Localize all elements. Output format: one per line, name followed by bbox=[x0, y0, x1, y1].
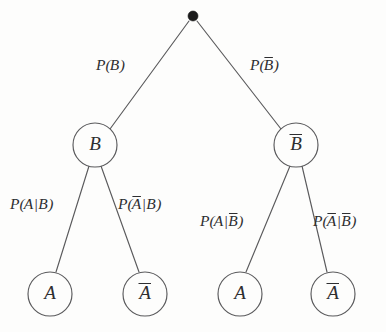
label-p-abar-given-bbar: P(A|B) bbox=[312, 212, 356, 230]
tree-canvas: B B A A A bbox=[0, 0, 386, 332]
edge-bbar-to-a bbox=[246, 166, 290, 272]
svg-text:|: | bbox=[142, 195, 146, 212]
node-bbar-label: B bbox=[290, 133, 302, 154]
edge-group-level-1 bbox=[110, 21, 281, 129]
svg-text:B: B bbox=[228, 212, 238, 229]
svg-text:|: | bbox=[224, 212, 228, 229]
svg-text:): ) bbox=[273, 56, 279, 74]
label-p-a-given-b: P(A|B) bbox=[9, 195, 53, 213]
svg-text:): ) bbox=[237, 212, 243, 230]
leaf-a-given-b[interactable]: A bbox=[28, 272, 72, 316]
node-group-level-2: A A A A bbox=[28, 272, 355, 316]
svg-text:): ) bbox=[47, 195, 53, 213]
svg-text:): ) bbox=[119, 56, 125, 74]
svg-text:B: B bbox=[264, 56, 274, 73]
probability-tree-diagram: B B A A A bbox=[0, 0, 386, 332]
root-node[interactable] bbox=[188, 11, 198, 21]
edge-group-level-2 bbox=[56, 166, 327, 272]
edge-b-to-abar bbox=[101, 166, 139, 272]
svg-text:B: B bbox=[110, 56, 120, 73]
node-b[interactable]: B bbox=[73, 123, 117, 167]
svg-text:A: A bbox=[23, 195, 34, 212]
leaf-abar-given-b[interactable]: A bbox=[123, 272, 167, 316]
leaf-abar-given-bbar[interactable]: A bbox=[311, 272, 355, 316]
node-bbar[interactable]: B bbox=[274, 123, 318, 167]
edge-root-to-bbar bbox=[197, 21, 281, 129]
label-p-a-given-bbar: P(A|B) bbox=[199, 212, 243, 230]
svg-text:): ) bbox=[155, 195, 161, 213]
node-b-label: B bbox=[89, 133, 101, 154]
svg-text:): ) bbox=[350, 212, 356, 230]
leaf-abar-given-b-label: A bbox=[137, 282, 151, 303]
svg-text:B: B bbox=[146, 195, 156, 212]
svg-text:A: A bbox=[131, 195, 142, 212]
label-p-bbar: P(B) bbox=[249, 56, 279, 74]
svg-text:A: A bbox=[213, 212, 224, 229]
leaf-a-given-bbar-label: A bbox=[232, 282, 246, 303]
label-p-b: P(B) bbox=[95, 56, 125, 74]
svg-text:B: B bbox=[38, 195, 48, 212]
svg-text:B: B bbox=[341, 212, 351, 229]
svg-text:A: A bbox=[326, 212, 337, 229]
node-group-level-1: B B bbox=[73, 123, 318, 167]
leaf-abar-given-bbar-label: A bbox=[325, 282, 339, 303]
label-p-abar-given-b: P(A|B) bbox=[117, 195, 161, 213]
svg-text:|: | bbox=[34, 195, 38, 212]
svg-text:|: | bbox=[337, 212, 341, 229]
leaf-a-given-bbar[interactable]: A bbox=[218, 272, 262, 316]
edge-root-to-b bbox=[110, 21, 189, 129]
leaf-a-given-b-label: A bbox=[42, 282, 56, 303]
edge-b-to-a bbox=[56, 166, 89, 272]
